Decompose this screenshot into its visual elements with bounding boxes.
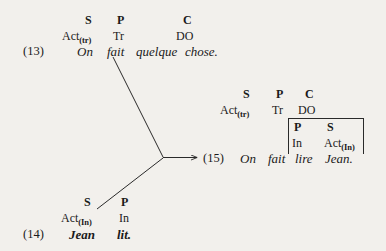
ex15-embedded-category-act-text: Act [324, 136, 341, 150]
ex14-category-in: In [119, 212, 129, 224]
derivation-figure: S P C Act(tr) Tr DO (13) On fait quelque… [0, 0, 386, 251]
ex15-word-lire: lire [295, 152, 313, 165]
branch-line-from-14 [97, 158, 163, 209]
ex15-embedded-category-act: Act(In) [324, 137, 355, 149]
ex13-category-tr: Tr [113, 30, 124, 42]
ex13-word-chose: chose. [185, 45, 218, 58]
ex15-category-act: Act(tr) [220, 104, 249, 116]
ex13-category-act-text: Act [62, 29, 79, 43]
ex13-category-act: Act(tr) [62, 30, 91, 42]
ex14-word-jean: Jean [69, 228, 95, 241]
ex13-category-do: DO [176, 30, 193, 42]
ex13-number: (13) [23, 45, 44, 58]
ex13-word-fait: fait [107, 45, 124, 58]
ex13-function-C: C [183, 14, 192, 26]
ex15-function-C: C [305, 88, 314, 100]
ex15-embedded-function-S: S [327, 121, 334, 133]
ex15-function-P: P [276, 88, 283, 100]
ex15-category-do: DO [298, 104, 315, 116]
ex14-word-lit: lit. [117, 228, 131, 241]
ex15-category-act-text: Act [220, 103, 237, 117]
ex15-embedded-category-in: In [292, 137, 302, 149]
ex15-embedded-category-act-subscript: (In) [341, 142, 354, 152]
ex13-function-P: P [117, 14, 124, 26]
ex15-word-fait: fait [268, 152, 285, 165]
ex13-function-S: S [85, 14, 92, 26]
ex13-word-quelque: quelque [136, 45, 177, 58]
branch-line-from-13 [113, 57, 163, 157]
ex15-function-S: S [243, 88, 250, 100]
ex13-category-act-subscript: (tr) [79, 35, 91, 45]
ex15-number: (15) [203, 152, 224, 165]
ex14-category-act-text: Act [61, 211, 78, 225]
ex14-category-act-subscript: (In) [78, 217, 91, 227]
ex14-category-act: Act(In) [61, 212, 92, 224]
ex14-function-P: P [121, 196, 128, 208]
ex15-category-act-subscript: (tr) [237, 109, 249, 119]
ex13-word-on: On [77, 45, 93, 58]
ex15-word-on: On [240, 152, 256, 165]
ex14-number: (14) [23, 228, 44, 241]
ex15-embedded-function-P: P [294, 121, 301, 133]
ex14-function-S: S [84, 196, 91, 208]
ex15-category-tr: Tr [272, 104, 283, 116]
ex15-word-jean: Jean. [325, 152, 353, 165]
